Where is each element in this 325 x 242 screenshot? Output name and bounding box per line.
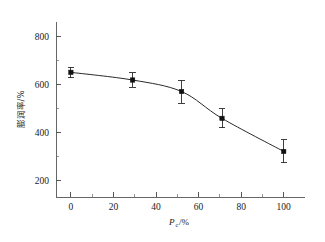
x-tick-label: 40 [151,202,161,212]
x-tick-label: 60 [194,202,204,212]
x-tick-label: 0 [69,202,74,212]
x-axis-title-base: P [168,217,175,227]
y-tick-label: 600 [35,80,50,90]
y-tick-label: 800 [35,32,50,42]
y-tick-label: 400 [35,128,50,138]
chart-figure: 020406080100 200400600800 P c /% 膨润率/% [0,0,325,242]
x-tick-label: 20 [109,202,119,212]
data-point-marker [179,89,183,93]
chart-plot-area: 020406080100 200400600800 P c /% 膨润率/% [0,0,325,242]
y-tick-label: 200 [35,176,50,186]
data-point-marker [130,78,134,82]
x-tick-label: 80 [236,202,246,212]
data-point-marker [69,70,73,74]
x-axis-title-unit: /% [179,217,190,227]
x-tick-label: 100 [277,202,292,212]
x-axis-title: P c /% [168,217,190,228]
data-point-marker [282,149,286,153]
y-axis-title: 膨润率/% [16,91,26,129]
y-axis-title-text: 膨润率/% [16,91,26,129]
data-point-marker [220,116,224,120]
